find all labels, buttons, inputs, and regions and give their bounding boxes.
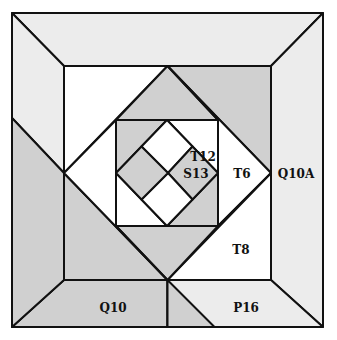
quilt-diagram: T12 S13 T6 Q10A T8 Q10 P16 [0,0,337,340]
label-t6: T6 [233,167,250,181]
label-q10: Q10 [99,301,126,315]
label-s13: S13 [183,167,208,181]
label-q10a: Q10A [278,167,315,181]
quilt-block-svg: T12 S13 T6 Q10A T8 Q10 P16 [0,0,337,340]
label-p16: P16 [233,301,259,315]
border-top-piece [12,13,323,66]
label-t8: T8 [232,243,249,257]
label-t12: T12 [190,150,216,164]
